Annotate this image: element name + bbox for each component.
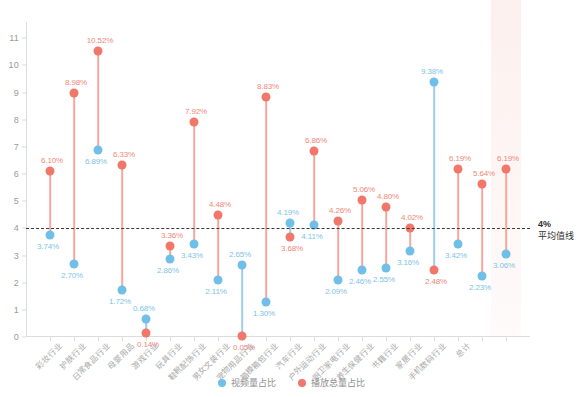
data-label-blue: 9.38% [421,67,443,76]
connector-line [505,169,507,254]
data-point-red[interactable] [118,161,127,170]
data-label-red: 10.52% [87,36,114,45]
y-tick-label: 7 [14,142,19,152]
x-tick-mark [98,337,99,341]
data-label-red: 6.19% [449,153,471,162]
data-point-red[interactable] [190,117,199,126]
x-tick-mark [410,337,411,341]
data-point-red[interactable] [238,331,247,340]
data-point-red[interactable] [262,93,271,102]
x-tick-mark [290,337,291,341]
x-tick-mark [338,337,339,341]
x-tick-mark [314,337,315,341]
data-point-red[interactable] [430,265,439,274]
data-label-red: 4.26% [329,206,351,215]
data-point-red[interactable] [358,195,367,204]
data-point-blue[interactable] [142,314,151,323]
data-label-red: 6.10% [41,156,63,165]
circle-icon [298,379,306,387]
y-tick-label: 3 [14,251,19,261]
data-point-red[interactable] [382,202,391,211]
data-label-blue: 2.11% [205,286,227,295]
data-point-blue[interactable] [358,266,367,275]
data-label-blue: 4.11% [301,232,323,241]
data-point-blue[interactable] [46,231,55,240]
y-tick-mark [22,119,26,120]
data-label-red: 8.98% [65,78,87,87]
data-label-red: 2.48% [425,276,447,285]
x-axis-line [26,336,530,337]
connector-line [193,122,195,244]
legend-item-play-share[interactable]: 播放总量占比 [298,376,365,389]
data-point-blue[interactable] [214,275,223,284]
connector-line [361,200,363,271]
chart-legend: 视频量占比 播放总量占比 [0,376,582,389]
y-tick-label: 1 [14,305,19,315]
y-tick-label: 6 [14,169,19,179]
data-point-blue[interactable] [118,286,127,295]
data-point-red[interactable] [454,164,463,173]
data-point-blue[interactable] [70,259,79,268]
data-point-red[interactable] [142,329,151,338]
data-point-red[interactable] [70,89,79,98]
legend-item-video-share[interactable]: 视频量占比 [218,376,276,389]
average-line-label: 平均值线 [538,230,574,242]
connector-line [73,93,75,264]
connector-line [241,265,243,336]
x-tick-mark [458,337,459,341]
data-point-red[interactable] [478,179,487,188]
data-point-red[interactable] [166,241,175,250]
data-point-blue[interactable] [238,261,247,270]
data-label-blue: 2.70% [61,270,83,279]
y-tick-label: 5 [14,196,19,206]
data-point-blue[interactable] [190,239,199,248]
data-point-red[interactable] [502,164,511,173]
data-label-blue: 3.42% [445,251,467,260]
y-tick-label: 2 [14,278,19,288]
y-tick-mark [22,65,26,66]
data-label-blue: 2.46% [349,277,371,286]
data-label-red: 6.19% [497,153,519,162]
data-point-blue[interactable] [262,297,271,306]
y-tick-label: 10 [9,60,19,70]
x-tick-mark [74,337,75,341]
y-tick-mark [22,282,26,283]
data-point-red[interactable] [46,167,55,176]
x-tick-mark [218,337,219,341]
data-point-red[interactable] [334,217,343,226]
data-point-blue[interactable] [166,255,175,264]
data-label-blue: 6.89% [85,156,107,165]
y-tick-mark [22,255,26,256]
data-point-red[interactable] [94,47,103,56]
x-category-label: 总计 [452,340,471,359]
data-label-blue: 3.74% [37,242,59,251]
y-tick-label: 8 [14,115,19,125]
data-point-red[interactable] [214,211,223,220]
data-point-blue[interactable] [382,263,391,272]
connector-line [265,97,267,301]
data-point-red[interactable] [286,233,295,242]
data-label-blue: 3.43% [181,250,203,259]
x-tick-mark [122,337,123,341]
data-label-blue: 2.86% [157,266,179,275]
data-point-red[interactable] [310,146,319,155]
data-label-blue: 2.65% [229,250,251,259]
data-point-blue[interactable] [334,276,343,285]
data-label-blue: 2.55% [373,274,395,283]
y-tick-label: 0 [14,332,19,342]
data-point-blue[interactable] [478,272,487,281]
data-point-blue[interactable] [406,247,415,256]
data-point-blue[interactable] [430,78,439,87]
x-tick-mark [50,337,51,341]
data-point-blue[interactable] [502,249,511,258]
average-line-annotation: 4% 平均值线 [538,218,574,242]
data-point-blue[interactable] [454,240,463,249]
y-tick-label: 4 [14,223,19,233]
data-label-red: 5.06% [353,184,375,193]
y-tick-mark [22,309,26,310]
x-tick-mark [386,337,387,341]
data-label-blue: 1.30% [253,308,275,317]
data-point-blue[interactable] [286,219,295,228]
data-label-blue: 0.68% [133,303,155,312]
data-point-blue[interactable] [94,145,103,154]
